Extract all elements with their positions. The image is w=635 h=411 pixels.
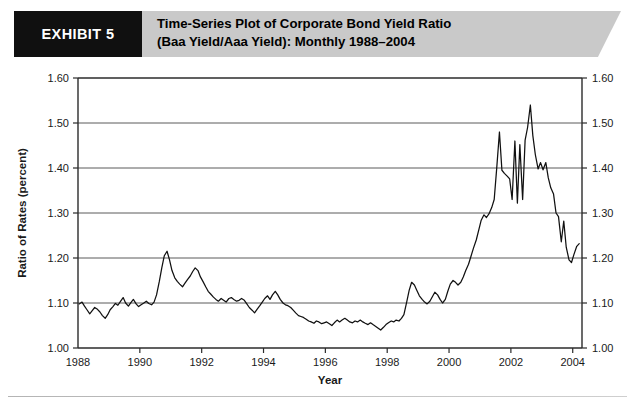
gridline-group xyxy=(78,123,582,303)
exhibit-title-line-1: Time-Series Plot of Corporate Bond Yield… xyxy=(157,15,597,33)
y-tick-label-left: 1.50 xyxy=(48,117,69,129)
y-tick-label-left: 1.00 xyxy=(48,342,69,354)
x-tick-label: 1998 xyxy=(375,356,399,368)
x-axis-title: Year xyxy=(318,374,343,386)
x-axis-tick-group: 198819901992199419961998200020022004 xyxy=(66,348,585,368)
y-tick-label-right: 1.20 xyxy=(592,252,613,264)
yield-ratio-line-chart: 1.001.101.201.301.401.501.60 1.001.101.2… xyxy=(0,62,635,392)
exhibit-number-tag: EXHIBIT 5 xyxy=(14,11,142,57)
exhibit-header-banner: EXHIBIT 5 Time-Series Plot of Corporate … xyxy=(14,11,621,57)
y-tick-label-right: 1.40 xyxy=(592,162,613,174)
y-tick-label-left: 1.60 xyxy=(48,72,69,84)
exhibit-tag-label: EXHIBIT 5 xyxy=(42,26,115,42)
y-axis-title: Ratio of Rates (percent) xyxy=(16,148,28,278)
chart-container: 1.001.101.201.301.401.501.60 1.001.101.2… xyxy=(0,62,635,392)
exhibit-title-line-2: (Baa Yield/Aaa Yield): Monthly 1988–2004 xyxy=(157,33,597,51)
y-tick-label-left: 1.20 xyxy=(48,252,69,264)
x-tick-label: 1996 xyxy=(313,356,337,368)
y-tick-label-right: 1.00 xyxy=(592,342,613,354)
series-line-baa-aaa-ratio xyxy=(79,105,579,330)
x-tick-label: 2004 xyxy=(560,356,584,368)
y-axis-right-tick-group: 1.001.101.201.301.401.501.60 xyxy=(582,72,613,354)
x-tick-label: 1990 xyxy=(128,356,152,368)
footer-divider-rule xyxy=(8,396,627,397)
y-tick-label-right: 1.30 xyxy=(592,207,613,219)
y-axis-left-tick-group: 1.001.101.201.301.401.501.60 xyxy=(48,72,78,354)
x-tick-label: 2002 xyxy=(499,356,523,368)
y-tick-label-right: 1.10 xyxy=(592,297,613,309)
x-tick-label: 1992 xyxy=(189,356,213,368)
y-tick-label-right: 1.50 xyxy=(592,117,613,129)
x-tick-label: 1988 xyxy=(66,356,90,368)
y-tick-label-left: 1.30 xyxy=(48,207,69,219)
y-tick-label-right: 1.60 xyxy=(592,72,613,84)
x-tick-label: 1994 xyxy=(251,356,275,368)
y-tick-label-left: 1.40 xyxy=(48,162,69,174)
y-tick-label-left: 1.10 xyxy=(48,297,69,309)
x-tick-label: 2000 xyxy=(437,356,461,368)
exhibit-title: Time-Series Plot of Corporate Bond Yield… xyxy=(157,15,597,50)
